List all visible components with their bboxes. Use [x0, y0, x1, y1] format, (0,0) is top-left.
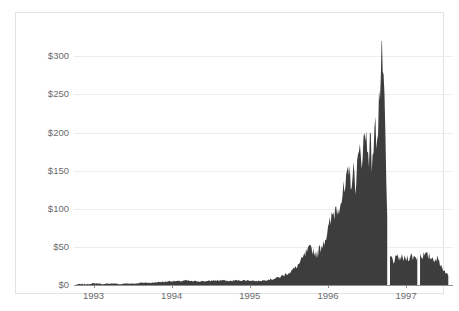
x-axis-line: [74, 285, 453, 286]
x-tick-label: 1994: [161, 290, 182, 301]
x-tick-label: 1997: [396, 290, 417, 301]
x-tick-mark: [94, 285, 95, 288]
plot-area: [74, 41, 453, 285]
x-tick-mark: [172, 285, 173, 288]
x-tick-label: 1996: [317, 290, 338, 301]
y-tick-label: $100: [48, 204, 69, 214]
x-tick-mark: [406, 285, 407, 288]
x-tick-mark: [328, 285, 329, 288]
chart-frame: $0$50$100$150$200$250$300 19931994199519…: [15, 12, 444, 294]
x-tick-label: 1995: [239, 290, 260, 301]
price-area-path: [76, 41, 448, 285]
y-tick-label: $150: [48, 166, 69, 176]
y-tick-label: $0: [58, 280, 69, 290]
price-area-series: [74, 41, 453, 285]
chart-container: $0$50$100$150$200$250$300 19931994199519…: [0, 0, 459, 311]
y-tick-label: $250: [48, 89, 69, 99]
x-tick-mark: [250, 285, 251, 288]
x-tick-label: 1993: [83, 290, 104, 301]
y-tick-label: $50: [53, 242, 69, 252]
x-axis-tick-labels: 19931994199519961997: [74, 290, 453, 304]
y-axis-tick-labels: $0$50$100$150$200$250$300: [16, 41, 69, 285]
y-tick-label: $200: [48, 128, 69, 138]
y-tick-label: $300: [48, 51, 69, 61]
